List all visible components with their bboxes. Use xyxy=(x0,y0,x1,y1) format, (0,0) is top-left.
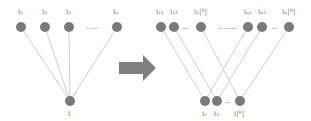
left-top-nodes: i₁ i₂ i₃ iₙ ...... xyxy=(16,8,122,32)
label-iN2: iₙ₂ xyxy=(258,8,266,16)
label-i2: i₂ xyxy=(42,8,47,16)
right-bottom-nodes: ... i₁ i₂ i|ᴿ| xyxy=(200,96,245,118)
node-b2 xyxy=(212,96,222,106)
label-i3: i₃ xyxy=(66,8,71,16)
bottom-ellipsis: ... xyxy=(224,96,230,105)
edge-iN1-b1 xyxy=(205,27,248,101)
label-b2: i₂ xyxy=(214,110,219,118)
node-iN1 xyxy=(243,22,253,32)
node-i3 xyxy=(64,22,74,32)
label-iN: iₙ xyxy=(113,8,118,16)
node-iNR xyxy=(284,22,294,32)
edge-i12-b2 xyxy=(174,27,217,101)
node-bR xyxy=(235,96,245,106)
node-i1R xyxy=(196,22,206,32)
node-i xyxy=(65,96,75,106)
label-iN1: iₙ₁ xyxy=(244,8,252,16)
node-i1 xyxy=(16,22,26,32)
edge-iN2-b2 xyxy=(217,27,262,101)
label-bR: i|ᴿ| xyxy=(234,110,244,118)
node-i12 xyxy=(169,22,179,32)
edge-iNR-bR xyxy=(240,27,289,101)
edge-i1R-bR xyxy=(201,27,240,101)
right-top-nodes: i₁₁ i₁₂ i₁|ᴿ| iₙ₁ iₙ₂ iₙ|ᴿ| ... ........… xyxy=(156,8,295,32)
label-b1: i₁ xyxy=(202,110,207,118)
node-iN2 xyxy=(257,22,267,32)
left-edges xyxy=(21,27,117,101)
transform-arrow-icon xyxy=(119,55,156,81)
edge-i1-i xyxy=(21,27,70,101)
diagram-canvas: i₁ i₂ i₃ iₙ ...... i i₁₁ i₁₂ i₁|ᴿ| iₙ₁ i… xyxy=(0,0,311,121)
label-i1R: i₁|ᴿ| xyxy=(194,8,207,16)
node-i11 xyxy=(156,22,166,32)
left-ellipsis: ...... xyxy=(86,22,98,31)
label-i11: i₁₁ xyxy=(156,8,164,16)
right-ellipsis-3: ... xyxy=(271,22,277,31)
label-i12: i₁₂ xyxy=(170,8,178,16)
edge-iN-i xyxy=(70,27,117,101)
node-iN xyxy=(112,22,122,32)
edge-i2-i xyxy=(45,27,70,101)
right-ellipsis-2: .......... xyxy=(217,22,237,31)
right-edges xyxy=(161,27,289,101)
label-iNR: iₙ|ᴿ| xyxy=(282,8,295,16)
node-i2 xyxy=(40,22,50,32)
node-b1 xyxy=(200,96,210,106)
edge-i11-b1 xyxy=(161,27,205,101)
edge-i3-i xyxy=(69,27,70,101)
label-i1: i₁ xyxy=(18,8,23,16)
right-ellipsis-1: ... xyxy=(182,22,188,31)
label-i: i xyxy=(68,110,71,118)
